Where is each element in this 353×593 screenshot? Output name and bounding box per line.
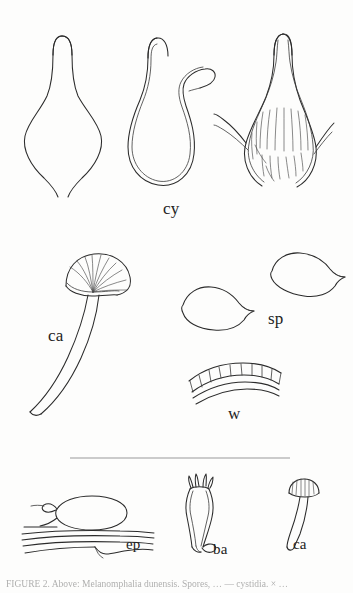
spore-apiculate-2 (271, 253, 346, 297)
spore-apiculate-1 (182, 287, 255, 330)
basidium-four-sterigmata (186, 474, 216, 552)
cystidium-encrusted (214, 34, 334, 187)
label-sp: sp (268, 310, 284, 327)
figure-caption-text: FIGURE 2. Above: Melanomphalia dunensis.… (0, 579, 353, 590)
cystidium-lobed (128, 38, 215, 185)
figure-drawing (0, 0, 353, 593)
cystidium-lageniform (24, 36, 101, 197)
label-w: w (228, 405, 240, 422)
label-ep: ep (126, 537, 141, 552)
label-ba: ba (213, 542, 228, 557)
caulocystidium-fan-headed (30, 254, 130, 416)
label-ca-main: ca (48, 327, 64, 344)
figure-plate: cy ca sp w ep ba ca FIGURE 2. Above: Mel… (0, 0, 353, 593)
label-cy: cy (163, 200, 179, 217)
hymenium-wall-section (189, 363, 281, 404)
figure-caption: FIGURE 2. Above: Melanomphalia dunensis.… (0, 578, 353, 593)
label-ca-small: ca (293, 537, 307, 552)
